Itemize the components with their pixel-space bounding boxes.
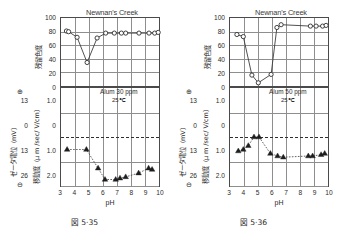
mobility-series (64, 147, 155, 182)
figure-5-35: Newnan's Creek 100 80 60 40 20 0 残留色度 (0, 0, 169, 245)
residual-color-series (235, 23, 328, 85)
figure-5-35-curves (0, 0, 169, 245)
mobility-series (236, 134, 328, 159)
figure-5-36: Newnan's Creek 100 80 60 40 20 0 残留色度 (169, 0, 338, 245)
figure-page: Newnan's Creek 100 80 60 40 20 0 残留色度 (0, 0, 338, 245)
figure-5-36-curves (169, 0, 338, 245)
residual-color-series (64, 29, 160, 65)
